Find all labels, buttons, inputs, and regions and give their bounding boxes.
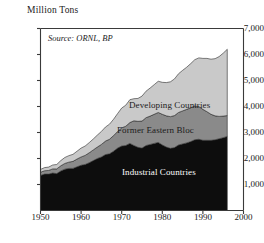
y-tick-label: 7,000 bbox=[230, 24, 264, 33]
series-label-industrial: Industrial Countries bbox=[122, 167, 196, 177]
y-tick-label: 6,000 bbox=[230, 50, 264, 59]
chart-container: Million Tons Source: ORNL, BP Developing… bbox=[0, 0, 264, 243]
y-tick-label: 1,000 bbox=[230, 180, 264, 189]
x-tick-label: 1950 bbox=[24, 213, 58, 222]
y-tick-label: 5,000 bbox=[230, 76, 264, 85]
x-tick-label: 1970 bbox=[105, 213, 139, 222]
x-tick-label: 1990 bbox=[186, 213, 220, 222]
y-tick-label: 3,000 bbox=[230, 128, 264, 137]
x-tick-label: 1980 bbox=[145, 213, 179, 222]
series-label-developing: Developing Countries bbox=[129, 100, 210, 110]
x-tick-label: 2000 bbox=[227, 213, 261, 222]
y-tick-label: 2,000 bbox=[230, 154, 264, 163]
series-label-former-eastern-bloc: Former Eastern Bloc bbox=[117, 125, 194, 135]
stacked-area-plot bbox=[0, 0, 264, 243]
y-tick-label: 4,000 bbox=[230, 102, 264, 111]
x-tick-label: 1960 bbox=[64, 213, 98, 222]
